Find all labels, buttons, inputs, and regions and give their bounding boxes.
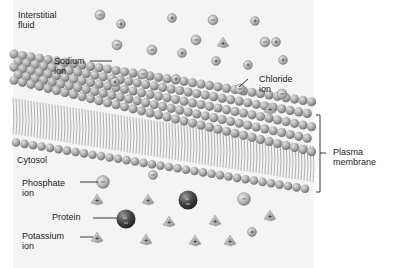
potassium-ion-icon: + bbox=[189, 235, 201, 246]
svg-text:+: + bbox=[192, 237, 197, 244]
svg-text:+: + bbox=[173, 75, 178, 83]
svg-text:+: + bbox=[213, 57, 218, 65]
diagram-artwork: ++++++++++−−−−−−−−−++−−−++++++++++ bbox=[0, 0, 393, 268]
anion-icon: − bbox=[97, 176, 110, 189]
anion-icon: − bbox=[208, 15, 218, 25]
svg-text:+: + bbox=[166, 218, 171, 225]
cation-icon: + bbox=[111, 78, 120, 87]
svg-text:−: − bbox=[114, 41, 119, 49]
svg-text:−: − bbox=[100, 178, 105, 186]
svg-text:−: − bbox=[149, 46, 154, 54]
cation-icon: + bbox=[248, 228, 257, 237]
anion-icon: − bbox=[95, 10, 105, 20]
cation-icon: + bbox=[168, 14, 177, 23]
svg-text:−: − bbox=[97, 11, 102, 19]
cation-icon: + bbox=[244, 61, 253, 70]
svg-text:+: + bbox=[118, 20, 123, 28]
potassium-ion-icon: + bbox=[163, 216, 175, 227]
svg-text:+: + bbox=[273, 38, 278, 46]
potassium-ion-icon: + bbox=[217, 37, 229, 48]
protein-icon bbox=[179, 191, 198, 210]
svg-text:+: + bbox=[249, 228, 254, 236]
svg-text:+: + bbox=[112, 78, 117, 86]
potassium-ion-icon: + bbox=[209, 215, 221, 226]
anion-icon: − bbox=[260, 37, 270, 47]
cation-icon: + bbox=[178, 49, 187, 58]
anion-icon: − bbox=[191, 35, 201, 45]
anion-icon: − bbox=[149, 171, 158, 180]
protein-icon bbox=[117, 210, 136, 229]
svg-text:−: − bbox=[193, 36, 198, 44]
cation-icon: + bbox=[279, 56, 288, 65]
cation-icon: + bbox=[172, 75, 181, 84]
svg-text:+: + bbox=[94, 234, 99, 241]
svg-text:+: + bbox=[212, 217, 217, 224]
potassium-ion-icon: + bbox=[142, 194, 154, 205]
cation-icon: + bbox=[272, 38, 281, 47]
svg-text:+: + bbox=[267, 105, 272, 112]
protein-label: Protein bbox=[52, 213, 81, 223]
cation-icon: + bbox=[212, 57, 221, 66]
anion-icon: − bbox=[235, 84, 245, 94]
svg-text:+: + bbox=[169, 14, 174, 22]
svg-text:−: − bbox=[241, 195, 246, 203]
anion-icon: − bbox=[112, 40, 122, 50]
potassium-ion-icon: + bbox=[224, 235, 236, 246]
potassium-ion-icon: + bbox=[91, 232, 103, 243]
svg-text:+: + bbox=[267, 212, 272, 219]
svg-text:+: + bbox=[227, 237, 232, 244]
potassium-ion-icon: + bbox=[91, 194, 103, 205]
svg-text:−: − bbox=[150, 171, 155, 179]
membrane-bracket bbox=[316, 115, 320, 192]
svg-text:−: − bbox=[262, 38, 267, 46]
anion-icon: − bbox=[138, 69, 148, 79]
svg-text:+: + bbox=[145, 196, 150, 203]
anion-icon: − bbox=[238, 193, 251, 206]
svg-text:+: + bbox=[220, 39, 225, 46]
phosphate-ion-label: Phosphate ion bbox=[22, 179, 65, 198]
svg-text:+: + bbox=[280, 56, 285, 64]
potassium-ion-label: Potassium ion bbox=[22, 232, 64, 251]
svg-text:+: + bbox=[94, 196, 99, 203]
svg-text:−: − bbox=[210, 16, 215, 24]
svg-text:−: − bbox=[140, 70, 145, 78]
interstitial-fluid-label: Interstitial fluid bbox=[18, 11, 57, 30]
sodium-ion-label: Sodium ion bbox=[54, 57, 85, 76]
chloride-ion-label: Chloride ion bbox=[259, 75, 293, 94]
cation-icon: + bbox=[251, 17, 260, 26]
plasma-membrane-label: Plasma membrane bbox=[333, 148, 376, 167]
potassium-ion-icon: + bbox=[140, 234, 152, 245]
svg-text:+: + bbox=[252, 17, 257, 25]
potassium-ion-icon: + bbox=[264, 210, 276, 221]
cytosol-label: Cytosol bbox=[17, 156, 47, 166]
svg-text:+: + bbox=[143, 236, 148, 243]
membrane-diagram: ++++++++++−−−−−−−−−++−−−++++++++++ Inter… bbox=[0, 0, 393, 268]
svg-text:+: + bbox=[245, 61, 250, 69]
anion-icon: − bbox=[147, 45, 157, 55]
svg-text:+: + bbox=[179, 49, 184, 57]
cation-icon: + bbox=[117, 20, 126, 29]
